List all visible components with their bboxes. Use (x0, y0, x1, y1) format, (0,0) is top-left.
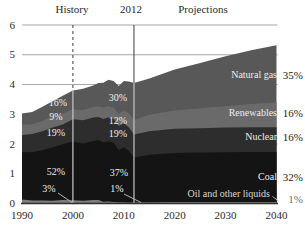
y-tick-label-5: 5 (0, 49, 15, 60)
series-label-nuclear: Nuclear (157, 132, 277, 142)
inner-share-renewables-2000: 9% (40, 112, 72, 122)
y-tick-label-0: 0 (0, 198, 15, 209)
x-tick-label-2030: 2030 (209, 210, 243, 221)
series-label-oil: Oil and other liquids (150, 189, 270, 199)
inner-share-coal-2012: 37% (103, 168, 135, 178)
x-tick-label-2010: 2010 (107, 210, 141, 221)
series-share-nuclear: 16% (273, 132, 303, 143)
inner-share-oil-2012: 1% (101, 184, 133, 194)
header-2012-label: 2012 (111, 4, 151, 15)
header-projections-label: Projections (167, 4, 239, 15)
inner-share-renewables-2012: 12% (102, 116, 134, 126)
series-share-oil: 1% (273, 194, 303, 205)
x-tick-label-1990: 1990 (5, 210, 39, 221)
series-share-natural_gas: 35% (273, 70, 303, 81)
stacked-area-chart-figure: History 2012 Projections 654321019902000… (0, 0, 305, 232)
inner-share-natural_gas-2012: 30% (102, 93, 134, 103)
y-tick-label-1: 1 (0, 168, 15, 179)
x-tick-label-2020: 2020 (158, 210, 192, 221)
series-share-coal: 32% (273, 172, 303, 183)
inner-share-nuclear-2000: 19% (40, 128, 72, 138)
series-label-renewables: Renewables (157, 108, 277, 118)
series-label-natural_gas: Natural gas (157, 70, 277, 80)
inner-share-nuclear-2012: 19% (102, 129, 134, 139)
series-label-coal: Coal (157, 172, 277, 182)
x-tick-label-2040: 2040 (260, 210, 294, 221)
inner-share-coal-2000: 52% (40, 167, 72, 177)
inner-share-natural_gas-2000: 16% (42, 98, 74, 108)
y-tick-label-2: 2 (0, 139, 15, 150)
series-share-renewables: 16% (273, 108, 303, 119)
y-tick-label-3: 3 (0, 109, 15, 120)
inner-share-oil-2000: 3% (33, 184, 65, 194)
x-tick-label-2000: 2000 (56, 210, 90, 221)
y-tick-label-6: 6 (0, 20, 15, 31)
header-history-label: History (42, 4, 102, 15)
y-tick-label-4: 4 (0, 79, 15, 90)
